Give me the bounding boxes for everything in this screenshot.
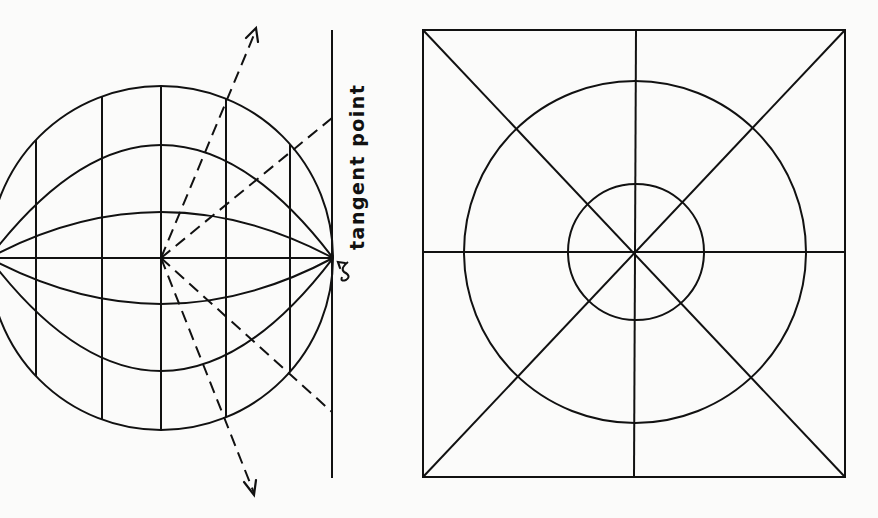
- tangent-point-label: tangent point: [346, 84, 368, 250]
- projection-ray: [161, 118, 332, 258]
- azimuthal-grid: [423, 30, 845, 477]
- parallel-arc: [0, 145, 333, 258]
- parallel-arc: [0, 258, 333, 371]
- diagram-canvas: [0, 0, 878, 518]
- projection-rays: [161, 28, 332, 495]
- projection-ray: [161, 258, 332, 412]
- parallel-arc: [0, 258, 333, 304]
- globe: [0, 60, 333, 460]
- vertical-axis-line: [634, 30, 636, 477]
- parallel-arc: [0, 212, 333, 258]
- arrowhead-icon: [244, 480, 256, 495]
- projection-ray-arrow-up: [161, 30, 256, 258]
- tangent-point-pointer-icon: [342, 262, 349, 281]
